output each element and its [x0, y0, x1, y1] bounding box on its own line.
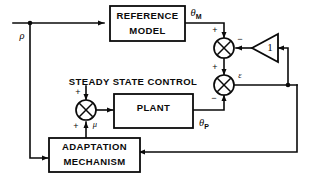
signal-label-control: μ [92, 119, 97, 129]
sign-left-sum-bottom: + [73, 121, 78, 131]
signal-label-input: ρ [18, 30, 24, 41]
block-adaptation-mechanism-label-line1: ADAPTATION [62, 141, 127, 152]
sign-left-sum-top: + [75, 87, 80, 97]
block-reference-model-label-line2: MODEL [129, 25, 165, 36]
block-adaptation-mechanism-label-line2: MECHANISM [63, 156, 125, 167]
block-gain-label: 1 [267, 41, 273, 53]
wire-error-to-gain-input [278, 48, 288, 85]
summing-junction-left[interactable] [76, 100, 96, 120]
summing-junction-upper[interactable] [214, 38, 234, 58]
block-plant-label: PLANT [137, 102, 171, 113]
sign-upper-sum-top: + [212, 25, 217, 35]
sign-lower-sum-bottom: − [211, 93, 216, 103]
node-dot-error-branch [286, 83, 291, 88]
signal-label-plant-output-subscript: P [204, 123, 209, 130]
signal-label-model-output-subscript: M [196, 13, 202, 20]
annotation-steady-state-control: STEADY STATE CONTROL [69, 76, 197, 87]
wire-input-to-adaptation-mechanism [30, 23, 48, 158]
wire-plant-output-to-lower-sum [193, 95, 224, 110]
sign-lower-sum-top: + [212, 62, 217, 72]
block-diagram-svg: REFERENCE MODEL PLANT ADAPTATION MECHANI… [0, 0, 313, 176]
block-reference-model-label-line1: REFERENCE [116, 10, 178, 21]
wire-model-output-to-upper-sum [185, 23, 224, 38]
signal-label-model-output: θM [190, 7, 201, 19]
summing-junction-lower[interactable] [214, 75, 234, 95]
block-diagram-canvas: REFERENCE MODEL PLANT ADAPTATION MECHANI… [0, 0, 313, 176]
block-gain-amplifier[interactable] [252, 34, 278, 62]
signal-label-error: ε [238, 70, 242, 80]
sign-upper-sum-right: − [237, 34, 242, 44]
signal-label-plant-output: θP [199, 117, 209, 129]
